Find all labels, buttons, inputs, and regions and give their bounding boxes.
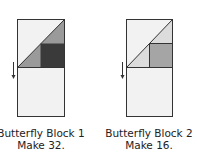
block-1-title: Butterfly Block 1 [0, 127, 90, 139]
block-1-quantity: Make 32. [0, 139, 90, 151]
block-2-quantity: Make 16. [100, 139, 197, 151]
block-1-caption: Butterfly Block 1 Make 32. [0, 127, 90, 151]
block-2-caption: Butterfly Block 2 Make 16. [100, 127, 197, 151]
block-2-title: Butterfly Block 2 [100, 127, 197, 139]
